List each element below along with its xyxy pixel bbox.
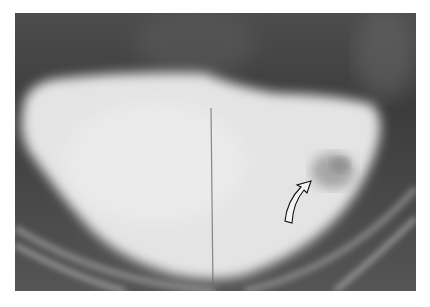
radiograph-image <box>15 13 416 291</box>
filling-defect <box>311 153 355 189</box>
radiograph-svg <box>15 13 416 291</box>
